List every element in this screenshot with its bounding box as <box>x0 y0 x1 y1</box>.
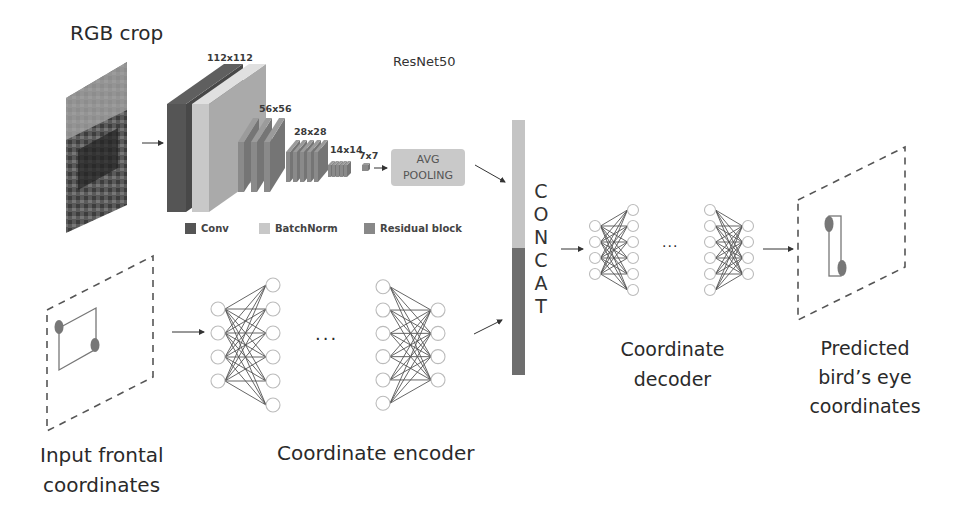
network-node <box>431 373 445 387</box>
network-node <box>211 374 225 388</box>
rgb-crop-image <box>66 62 127 233</box>
arrow-avg-to-concat <box>475 165 505 182</box>
network-node <box>211 326 225 340</box>
network-node <box>743 237 754 248</box>
concat-letter-6: T <box>533 295 549 317</box>
network-node <box>590 253 601 264</box>
concat-letter-3: N <box>533 226 549 248</box>
network-node <box>590 221 601 232</box>
input-frontal-frame <box>47 256 153 431</box>
res-label-56: 56x56 <box>259 103 292 114</box>
network-node <box>376 373 390 387</box>
legend-swatch-conv <box>185 223 196 234</box>
network-node <box>431 326 445 340</box>
concat-letter-4: C <box>533 249 549 271</box>
network-node <box>705 221 716 232</box>
decoder-label: Coordinate decoder <box>615 334 730 394</box>
decoder-network-2 <box>705 205 754 296</box>
network-node <box>266 374 280 388</box>
network-node <box>705 205 716 216</box>
input-label-line2: coordinates <box>40 470 164 500</box>
res-label-7: 7x7 <box>359 150 378 161</box>
network-edge <box>390 380 431 403</box>
decoder-label-line1: Coordinate <box>615 334 730 364</box>
res-label-28: 28x28 <box>294 126 327 137</box>
network-node <box>628 221 639 232</box>
network-node <box>705 285 716 296</box>
network-node <box>431 350 445 364</box>
network-node <box>211 350 225 364</box>
network-node <box>266 278 280 292</box>
res-label-112: 112x112 <box>207 52 253 63</box>
network-node <box>743 253 754 264</box>
concat-letter-1: C <box>533 180 549 202</box>
input-label-line1: Input frontal <box>40 440 164 470</box>
network-node <box>266 350 280 364</box>
input-box <box>59 308 96 370</box>
resnet-blocks <box>167 64 370 212</box>
legend-batchnorm: BatchNorm <box>259 223 338 234</box>
predicted-point-2 <box>838 260 847 276</box>
network-node <box>376 326 390 340</box>
network-node <box>628 285 639 296</box>
legend-label-conv: Conv <box>201 223 229 234</box>
avg-pooling-line2: POOLING <box>391 168 465 184</box>
input-label: Input frontal coordinates <box>40 440 164 500</box>
legend-conv: Conv <box>185 223 229 234</box>
resnet-label: ResNet50 <box>393 54 456 69</box>
avg-pooling-box: AVG POOLING <box>391 149 465 186</box>
predicted-frame <box>798 147 905 320</box>
network-node <box>705 253 716 264</box>
network-node <box>431 303 445 317</box>
network-node <box>628 237 639 248</box>
network-node <box>590 237 601 248</box>
network-node <box>743 221 754 232</box>
decoder-network-1 <box>590 205 639 296</box>
network-node <box>376 280 390 294</box>
network-node <box>590 269 601 280</box>
input-point-2 <box>91 338 100 352</box>
predicted-label-line3: coordinates <box>800 392 930 421</box>
encoder-label: Coordinate encoder <box>277 440 474 466</box>
decoder-label-line2: decoder <box>615 364 730 394</box>
res-label-14: 14x14 <box>330 144 363 155</box>
network-node <box>628 205 639 216</box>
network-node <box>628 269 639 280</box>
predicted-label: Predicted bird’s eye coordinates <box>800 334 930 421</box>
avg-pooling-line1: AVG <box>391 152 465 168</box>
network-edge <box>225 285 266 357</box>
network-edge <box>390 333 431 403</box>
network-node <box>266 398 280 412</box>
network-node <box>211 302 225 316</box>
network-node <box>705 269 716 280</box>
predicted-label-line2: bird’s eye <box>800 363 930 392</box>
legend-label-batchnorm: BatchNorm <box>275 223 338 234</box>
concat-letter-2: O <box>533 203 549 225</box>
decoder-ellipsis: ··· <box>662 238 678 254</box>
legend-swatch-batchnorm <box>259 223 270 234</box>
network-edge <box>390 287 431 310</box>
arrow-encoder-to-concat <box>474 320 502 334</box>
network-node <box>628 253 639 264</box>
concat-bar <box>512 120 525 375</box>
network-edge <box>225 285 266 309</box>
network-node <box>705 237 716 248</box>
network-node <box>266 302 280 316</box>
input-point-1 <box>55 320 64 334</box>
legend-residual: Residual block <box>364 223 462 234</box>
legend-label-residual: Residual block <box>380 223 462 234</box>
network-node <box>743 269 754 280</box>
encoder-network-1 <box>211 278 280 412</box>
encoder-ellipsis: ··· <box>315 328 338 349</box>
concat-letter-5: A <box>533 272 549 294</box>
network-node <box>376 303 390 317</box>
residual-block-7 <box>362 163 370 171</box>
legend-swatch-residual <box>364 223 375 234</box>
predicted-label-line1: Predicted <box>800 334 930 363</box>
rgb-crop-label: RGB crop <box>70 20 163 46</box>
encoder-network-2 <box>376 280 445 411</box>
predicted-point-1 <box>825 216 834 232</box>
diagram-canvas <box>0 0 962 507</box>
network-node <box>266 326 280 340</box>
network-node <box>376 350 390 364</box>
